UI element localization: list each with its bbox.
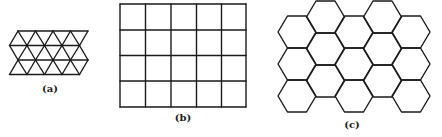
lattice-edge [80, 60, 89, 75]
lattice-edge [80, 46, 89, 61]
hexagonal-lattice [278, 1, 430, 112]
lattice-edge [45, 31, 54, 46]
hexagon-cell [364, 1, 402, 33]
lattice-edge [80, 31, 89, 46]
panel-label-c: (c) [344, 119, 360, 130]
hexagon-cell [307, 1, 345, 33]
lattice-edge [36, 60, 45, 75]
square-lattice [120, 4, 246, 107]
lattice-edge [45, 46, 54, 61]
lattice-edge [18, 60, 27, 75]
panel-label-b: (b) [175, 112, 191, 123]
lattice-edge [18, 31, 27, 46]
hexagon-cell [278, 80, 316, 112]
lattice-edge [10, 60, 19, 75]
lattice-edge [27, 31, 36, 46]
lattice-edge [62, 31, 71, 46]
hexagon-cell [392, 80, 430, 112]
lattice-edge [71, 31, 80, 46]
lattice-edge [18, 46, 27, 61]
lattice-edge [53, 46, 62, 61]
lattice-edge [27, 60, 36, 75]
lattice-edge [27, 46, 36, 61]
lattice-edge [62, 46, 71, 61]
lattice-edge [45, 60, 54, 75]
lattice-edge [71, 60, 80, 75]
lattice-edge [36, 46, 45, 61]
lattice-edge [10, 31, 19, 46]
triangular-lattice [10, 31, 89, 75]
lattice-edge [71, 46, 80, 61]
lattice-edge [53, 60, 62, 75]
lattice-edge [53, 31, 62, 46]
lattice-edge [36, 31, 45, 46]
lattice-edge [62, 60, 71, 75]
hexagon-cell [335, 80, 373, 112]
panel-label-a: (a) [42, 83, 58, 94]
lattice-edge [10, 46, 19, 61]
lattice-figure [0, 0, 442, 137]
